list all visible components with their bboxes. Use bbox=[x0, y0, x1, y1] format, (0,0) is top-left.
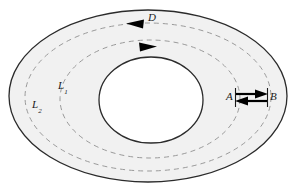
contour-label-L1-subscript: 1 bbox=[64, 88, 68, 96]
contour-label-L2-subscript: 2 bbox=[38, 107, 42, 115]
cut-label-A: A bbox=[226, 91, 233, 102]
figure-container: L1 L2 D A B bbox=[0, 0, 299, 191]
cut-label-B: B bbox=[270, 91, 277, 102]
inner-boundary-ellipse bbox=[99, 57, 203, 143]
annulus-contour-diagram bbox=[0, 0, 299, 191]
contour-label-L1: L1 bbox=[58, 80, 68, 94]
contour-label-L2: L2 bbox=[32, 99, 42, 113]
direction-label-D: D bbox=[148, 12, 156, 23]
